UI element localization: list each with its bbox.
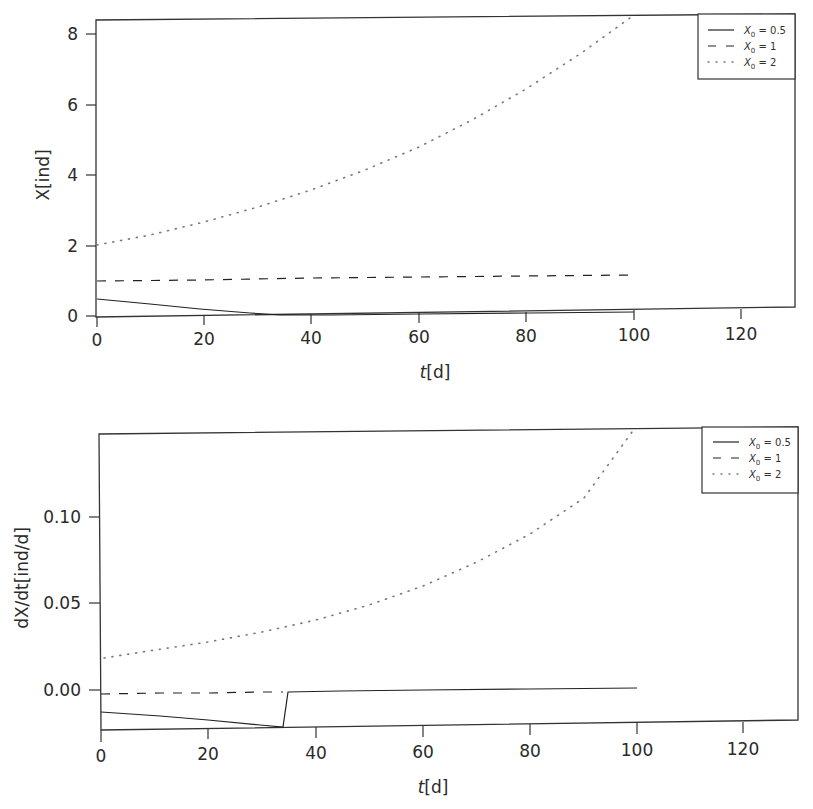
- bottom-x-tick-120: 120: [727, 739, 759, 759]
- top-y-tick-8: 8: [67, 24, 78, 44]
- bottom-x-tick-20: 20: [197, 744, 219, 764]
- top-series-x0-2: [97, 15, 634, 245]
- top-x-tick-40: 40: [300, 328, 322, 348]
- top-x-tick-60: 60: [408, 327, 430, 347]
- bottom-y-tick-0.05: 0.05: [43, 593, 81, 613]
- bottom-x-tick-0: 0: [96, 746, 107, 766]
- top-x-tick-100: 100: [618, 325, 650, 345]
- bottom-y-tick-0.10: 0.10: [43, 507, 81, 527]
- top-x-tick-0: 0: [92, 330, 103, 350]
- top-y-axis-title: X[ind]: [33, 149, 53, 200]
- top-series-x0-1: [97, 275, 634, 281]
- bottom-x-tick-80: 80: [519, 741, 541, 761]
- top-y-tick-0: 0: [67, 306, 78, 326]
- top-x-tick-20: 20: [193, 329, 215, 349]
- top-y-tick-2: 2: [67, 236, 78, 256]
- bottom-series-x0-1: [101, 692, 283, 694]
- bottom-y-axis-title: dX/dt[ind/d]: [12, 527, 32, 629]
- bottom-series-x0-2: [104, 432, 632, 658]
- top-x-tick-120: 120: [725, 324, 757, 344]
- top-legend: X0 = 0.5 X0 = 1 X0 = 2: [698, 14, 795, 79]
- top-x-axis-title: t[d]: [420, 362, 451, 382]
- bottom-x-axis-title: t[d]: [418, 777, 449, 797]
- bottom-series-x0-0.5: [101, 688, 637, 727]
- top-y-tick-6: 6: [67, 95, 78, 115]
- bottom-legend: X0 = 0.5 X0 = 1 X0 = 2: [702, 427, 798, 493]
- bottom-x-tick-40: 40: [305, 743, 327, 763]
- top-y-axis: [86, 34, 96, 316]
- top-plot: 8 6 4 2 0 X[ind] 0 20 40 60 80 100 120 t…: [33, 14, 795, 382]
- top-plot-frame: [96, 14, 795, 317]
- bottom-x-tick-100: 100: [621, 740, 653, 760]
- bottom-plot: 0.10 0.05 0.00 dX/dt[ind/d] 0 20 40 60 8…: [12, 427, 798, 797]
- top-y-tick-4: 4: [67, 165, 78, 185]
- bottom-y-tick-0.00: 0.00: [43, 680, 81, 700]
- bottom-plot-frame: [99, 427, 798, 730]
- top-x-tick-80: 80: [515, 326, 537, 346]
- figure: 8 6 4 2 0 X[ind] 0 20 40 60 80 100 120 t…: [0, 0, 813, 809]
- bottom-x-tick-60: 60: [412, 742, 434, 762]
